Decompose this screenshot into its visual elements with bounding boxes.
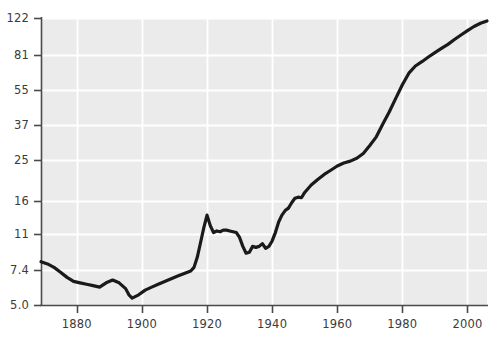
y-tick-label: 25	[0, 153, 29, 167]
x-tick-label: 1900	[127, 317, 157, 331]
y-tick-label: 81	[0, 48, 29, 62]
x-tick-label: 2000	[452, 317, 482, 331]
x-tick-label: 1960	[322, 317, 352, 331]
y-tick-label: 55	[0, 83, 29, 97]
x-tick-label: 1940	[257, 317, 287, 331]
x-tick-label: 1980	[387, 317, 417, 331]
x-tick-label: 1880	[62, 317, 92, 331]
y-tick-label: 11	[0, 227, 29, 241]
x-tick-label: 1920	[192, 317, 222, 331]
y-tick-label: 122	[0, 11, 29, 25]
y-tick-label: 16	[0, 194, 29, 208]
chart-plot	[0, 0, 497, 338]
y-tick-label: 37	[0, 118, 29, 132]
y-tick-label: 5.0	[0, 298, 29, 312]
chart-container: 5.07.4111625375581122 188019001920194019…	[0, 0, 497, 338]
y-tick-label: 7.4	[0, 263, 29, 277]
